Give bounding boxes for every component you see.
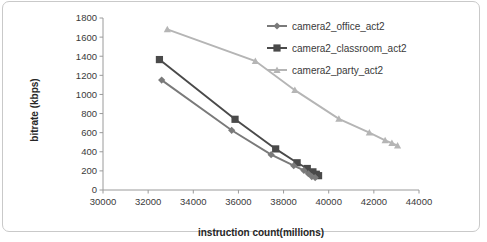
y-tick-label: 0 [92,184,97,195]
x-tick-label: 38000 [270,196,296,207]
y-tick-label: 400 [81,146,97,157]
data-point-square-marker [156,56,163,63]
x-tick-label: 32000 [135,196,161,207]
y-tick-label: 800 [81,108,97,119]
x-axis-title: instruction count(millions) [198,227,324,238]
x-tick-label: 44000 [406,196,432,207]
data-point-triangle-marker [164,26,171,32]
y-tick-label: 1600 [76,32,97,43]
y-tick-label: 1800 [76,12,97,23]
series-line-camera2_office_act2 [162,80,315,177]
data-point-square-marker [272,145,279,152]
chart-legend: camera2_office_act2camera2_classroom_act… [267,21,407,76]
x-tick-label: 40000 [316,196,342,207]
y-tick-label: 200 [81,165,97,176]
series-line-camera2_classroom_act2 [159,60,318,176]
x-tick-label: 42000 [361,196,387,207]
legend-marker-square-icon [273,44,280,51]
chart-canvas: 020040060080010001200140016001800 300003… [0,0,487,242]
y-tick-label: 1400 [76,51,97,62]
x-tick-label: 34000 [180,196,206,207]
legend-label-camera2_office_act2: camera2_office_act2 [292,21,385,32]
x-axis: 3000032000340003600038000400004200044000 [90,190,432,207]
legend-marker-diamond-icon [273,22,280,29]
y-axis: 020040060080010001200140016001800 [76,12,103,195]
y-tick-label: 1000 [76,89,97,100]
y-tick-label: 1200 [76,70,97,81]
data-point-square-marker [231,116,238,123]
y-axis-title: bitrate (kbps) [29,78,40,141]
x-tick-label: 36000 [225,196,251,207]
x-tick-label: 30000 [90,196,116,207]
y-tick-label: 600 [81,127,97,138]
legend-label-camera2_party_act2: camera2_party_act2 [292,65,384,76]
legend-label-camera2_classroom_act2: camera2_classroom_act2 [292,43,407,54]
